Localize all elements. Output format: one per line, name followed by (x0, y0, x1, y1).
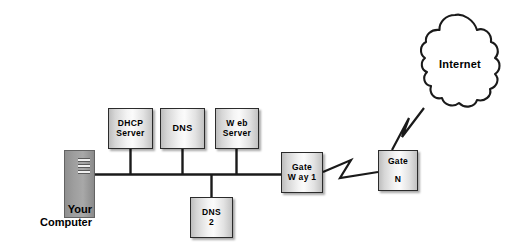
node-web-server-label: W eb Server (223, 119, 251, 137)
lightning-gwn-cloud (392, 108, 424, 150)
node-gateway-n-label: Gate N (388, 157, 408, 185)
node-gateway-1-label: Gate W ay 1 (288, 163, 317, 181)
network-diagram: Your Computer DHCP Server DNS W eb Serve… (0, 0, 508, 252)
drive-bays-icon (78, 158, 90, 176)
node-dns-2[interactable]: DNS 2 (190, 197, 233, 238)
node-dhcp-server[interactable]: DHCP Server (108, 108, 153, 149)
node-gateway-1[interactable]: Gate W ay 1 (281, 152, 323, 193)
node-dns-2-label: DNS 2 (202, 208, 221, 226)
node-web-server[interactable]: W eb Server (215, 108, 259, 149)
your-computer-label: Your Computer (2, 203, 92, 230)
node-dns[interactable]: DNS (160, 108, 205, 149)
lightning-gw1-gwn (323, 160, 378, 178)
node-dhcp-server-label: DHCP Server (116, 119, 144, 137)
node-gateway-n[interactable]: Gate N (378, 150, 418, 191)
internet-cloud-label: Internet (418, 58, 502, 70)
node-dns-label: DNS (173, 124, 193, 134)
